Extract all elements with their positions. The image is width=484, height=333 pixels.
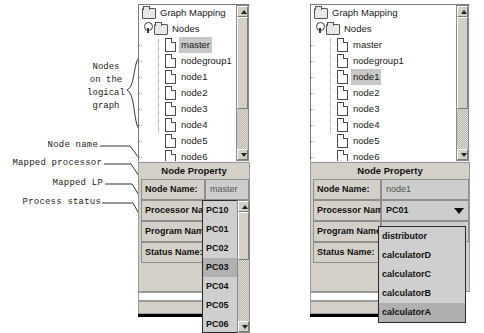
right-tree-scrollbar[interactable] bbox=[456, 5, 469, 161]
file-icon bbox=[163, 102, 176, 114]
tree-item-label: node2 bbox=[351, 85, 381, 101]
tree-item-nodegroup1[interactable]: nodegroup1 bbox=[311, 53, 456, 69]
right-tree: Graph Mapping Nodes master nodegroup1 no… bbox=[311, 5, 456, 161]
left-property-title: Node Property bbox=[139, 163, 249, 178]
folder-icon bbox=[314, 6, 327, 18]
tree-item-nodegroup1[interactable]: nodegroup1 bbox=[139, 53, 236, 69]
file-icon bbox=[335, 86, 348, 98]
file-icon bbox=[335, 102, 348, 114]
tree-item-node2[interactable]: node2 bbox=[139, 85, 236, 101]
left-window: Graph Mapping Nodes master nodegroup1 no… bbox=[138, 4, 250, 326]
chevron-up-icon bbox=[242, 205, 248, 209]
file-icon bbox=[335, 54, 348, 66]
tree-item-node6[interactable]: node6 bbox=[139, 149, 236, 161]
label-status-name: Status Name: bbox=[141, 242, 205, 263]
label-node-name: Node Name: bbox=[313, 179, 381, 200]
file-icon bbox=[163, 134, 176, 146]
tree-item-node3[interactable]: node3 bbox=[139, 101, 236, 117]
scroll-down-button[interactable] bbox=[457, 149, 468, 160]
scroll-down-button[interactable] bbox=[237, 149, 248, 160]
tree-group-row[interactable]: Nodes bbox=[311, 21, 456, 37]
file-icon bbox=[335, 118, 348, 130]
tree-item-node2[interactable]: node2 bbox=[311, 85, 456, 101]
label-node-name: Node Name: bbox=[141, 179, 205, 200]
tree-item-label: nodegroup1 bbox=[179, 53, 234, 69]
expand-handle-icon[interactable] bbox=[142, 22, 153, 33]
tree-item-label: node3 bbox=[351, 101, 381, 117]
chevron-down-icon bbox=[241, 153, 247, 157]
scrollbar-thumb[interactable] bbox=[237, 17, 248, 109]
left-black-bar bbox=[138, 314, 206, 317]
right-panel-filler bbox=[310, 301, 382, 314]
label-program-name: Program Name: bbox=[313, 221, 381, 242]
tree-item-label: master bbox=[179, 37, 212, 53]
left-tree-scrollbar[interactable] bbox=[236, 5, 249, 161]
left-popup-scrollbar[interactable] bbox=[237, 200, 250, 333]
left-panel-filler bbox=[138, 301, 206, 314]
tree-group-row[interactable]: Nodes bbox=[139, 21, 236, 37]
annotation-mapped-processor: Mapped processor bbox=[0, 158, 102, 168]
chevron-down-icon bbox=[454, 208, 464, 214]
combo-processor-name[interactable]: PC01 bbox=[381, 200, 469, 221]
file-icon bbox=[163, 38, 176, 50]
file-icon bbox=[335, 70, 348, 82]
folder-icon bbox=[154, 22, 167, 34]
popup-option-selected[interactable]: calculatorA bbox=[379, 303, 465, 322]
label-processor-name: Processor Name: bbox=[313, 200, 381, 221]
tree-item-label: node1 bbox=[179, 69, 209, 85]
scrollbar-thumb[interactable] bbox=[238, 212, 249, 260]
file-icon bbox=[163, 54, 176, 66]
label-program-name: Program Name: bbox=[141, 221, 205, 242]
tree-item-node1[interactable]: node1 bbox=[139, 69, 236, 85]
file-icon bbox=[163, 118, 176, 130]
label-processor-name: Processor Name: bbox=[141, 200, 205, 221]
tree-item-label: node6 bbox=[351, 149, 381, 161]
popup-option[interactable]: calculatorB bbox=[379, 284, 465, 303]
chevron-down-icon bbox=[242, 325, 248, 329]
file-icon bbox=[163, 70, 176, 82]
tree-root-row[interactable]: Graph Mapping bbox=[139, 5, 236, 21]
right-tree-panel: Graph Mapping Nodes master nodegroup1 no… bbox=[310, 4, 470, 162]
chevron-up-icon bbox=[461, 10, 467, 14]
tree-item-node1[interactable]: node1 bbox=[311, 69, 456, 85]
tree-item-node3[interactable]: node3 bbox=[311, 101, 456, 117]
tree-item-node5[interactable]: node5 bbox=[311, 133, 456, 149]
folder-icon bbox=[142, 6, 155, 18]
scroll-up-button[interactable] bbox=[457, 6, 468, 17]
value-node-name: master bbox=[205, 179, 249, 200]
scroll-up-button[interactable] bbox=[238, 201, 249, 212]
scrollbar-thumb[interactable] bbox=[457, 17, 468, 109]
right-tree-viewport[interactable]: Graph Mapping Nodes master nodegroup1 no… bbox=[311, 5, 456, 161]
left-tree: Graph Mapping Nodes master nodegroup1 no… bbox=[139, 5, 236, 161]
value-node-name: node1 bbox=[381, 179, 469, 200]
scroll-up-button[interactable] bbox=[237, 6, 248, 17]
tree-item-label: node5 bbox=[351, 133, 381, 149]
popup-option[interactable]: calculatorC bbox=[379, 265, 465, 284]
tree-item-label: master bbox=[351, 37, 384, 53]
tree-root-label: Graph Mapping bbox=[158, 5, 227, 21]
chevron-down-icon bbox=[461, 153, 467, 157]
tree-item-label: node4 bbox=[179, 117, 209, 133]
tree-item-label: nodegroup1 bbox=[351, 53, 406, 69]
right-property-title: Node Property bbox=[311, 163, 469, 178]
scroll-down-button[interactable] bbox=[238, 321, 249, 332]
popup-option[interactable]: distributor bbox=[379, 227, 465, 246]
left-tree-viewport[interactable]: Graph Mapping Nodes master nodegroup1 no… bbox=[139, 5, 236, 161]
right-white-strip bbox=[310, 292, 382, 301]
tree-root-row[interactable]: Graph Mapping bbox=[311, 5, 456, 21]
right-dropdown-popup[interactable]: distributor calculatorD calculatorC calc… bbox=[378, 226, 466, 323]
left-tree-panel: Graph Mapping Nodes master nodegroup1 no… bbox=[138, 4, 250, 162]
file-icon bbox=[163, 150, 176, 161]
tree-item-node4[interactable]: node4 bbox=[139, 117, 236, 133]
tree-item-master[interactable]: master bbox=[139, 37, 236, 53]
tree-item-master[interactable]: master bbox=[311, 37, 456, 53]
tree-item-label: node5 bbox=[179, 133, 209, 149]
expand-handle-icon[interactable] bbox=[314, 22, 325, 33]
tree-item-node5[interactable]: node5 bbox=[139, 133, 236, 149]
popup-option[interactable]: calculatorD bbox=[379, 246, 465, 265]
file-icon bbox=[335, 38, 348, 50]
tree-item-label: node2 bbox=[179, 85, 209, 101]
chevron-up-icon bbox=[241, 10, 247, 14]
tree-item-node4[interactable]: node4 bbox=[311, 117, 456, 133]
tree-item-node6[interactable]: node6 bbox=[311, 149, 456, 161]
